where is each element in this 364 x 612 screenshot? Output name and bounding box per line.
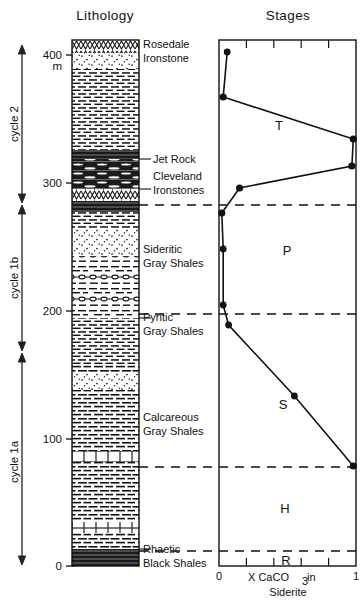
litho-unit-sideritic-gray-shales: [72, 256, 139, 318]
litho-band-limestone-b: [72, 522, 139, 533]
litho-label-rhaetic-line1: Rhaetic: [143, 543, 181, 555]
litho-label-pyritic-line1: Pyritic: [143, 311, 173, 323]
data-point: [225, 322, 232, 329]
stages-title: Stages: [266, 8, 310, 23]
litho-label-rhaetic-line2: Black Shales: [143, 557, 207, 569]
stages-plot-frame: [219, 40, 356, 566]
litho-unit-pyritic-gray-shales: [72, 318, 139, 364]
litho-unit-jet-rock: [72, 159, 139, 189]
xaxis-title-pre: X CaCO: [248, 571, 289, 583]
litho-label-cleveland-line2: Ironstones: [153, 184, 205, 196]
data-point: [291, 393, 298, 400]
caco3-data-points: [218, 49, 357, 470]
litho-unit-sandstone-mid: [72, 228, 139, 256]
xaxis-title-post: in: [307, 571, 316, 583]
stratigraphic-figure: Lithology Stages cycle 2 cycle 1b cycle …: [0, 0, 364, 612]
stage-label-R: R: [281, 553, 290, 568]
litho-unit-laminated-band-a: [72, 150, 139, 159]
litho-label-rosedale-line2: Ironstone: [143, 52, 189, 64]
depth-tick-200: 200: [43, 305, 62, 317]
depth-tick-0: 0: [56, 560, 62, 572]
stage-label-H: H: [280, 501, 289, 516]
litho-unit-rosedale-ironstone: [72, 40, 139, 53]
stage-label-S: S: [279, 397, 288, 412]
litho-label-calcareous-line1: Calcareous: [143, 411, 199, 423]
data-point: [220, 302, 227, 309]
data-point: [220, 93, 227, 100]
litho-label-rosedale-line1: Rosedale: [143, 38, 189, 50]
data-point: [348, 162, 355, 169]
xaxis-title: X CaCO 3 in Siderite: [248, 571, 316, 598]
data-point: [224, 49, 231, 56]
data-point: [218, 209, 225, 216]
lithology-column: [72, 40, 139, 566]
cycle-label-cycle-1b: cycle 1b: [8, 257, 20, 299]
depth-tick-100: 100: [43, 433, 62, 445]
litho-label-sideritic-line1: Sideritic: [143, 243, 183, 255]
litho-label-pyritic-line2: Gray Shales: [143, 325, 204, 337]
litho-band-silty-a: [72, 372, 139, 390]
stage-label-T: T: [275, 118, 283, 133]
depth-tick-300: 300: [43, 177, 62, 189]
litho-unit-cleveland-ironstones: [72, 189, 139, 201]
litho-unit-ironstone-dark-band: [72, 201, 139, 212]
litho-label-sideritic-line2: Gray Shales: [143, 257, 204, 269]
xaxis-tick-1: 1: [353, 570, 359, 582]
litho-unit-shale-mid: [72, 212, 139, 228]
figure-canvas: Lithology Stages cycle 2 cycle 1b cycle …: [0, 0, 364, 612]
data-point: [350, 462, 357, 469]
data-point: [236, 184, 243, 191]
xaxis-tick-0: 0: [216, 570, 222, 582]
stages-top-ticks: [246, 40, 328, 48]
cycle-label-cycle-2: cycle 2: [8, 106, 20, 142]
xaxis-title-line2: Siderite: [269, 586, 306, 598]
stage-label-P: P: [283, 243, 292, 258]
litho-band-limestone-a: [72, 451, 139, 462]
litho-label-calcareous-line2: Gray Shales: [143, 425, 204, 437]
litho-unit-rhaetic-black-shales: [72, 549, 139, 566]
leader-lines: [139, 159, 151, 549]
cycle-label-cycle-1a: cycle 1a: [8, 440, 20, 483]
litho-label-jet-rock: Jet Rock: [153, 153, 196, 165]
depth-unit-label: m: [52, 60, 62, 72]
data-point: [220, 246, 227, 253]
stages-plot: T P S H R: [139, 40, 357, 568]
data-point: [350, 135, 357, 142]
lithology-labels: Rosedale Ironstone Jet Rock Cleveland Ir…: [143, 38, 207, 569]
litho-label-cleveland-line1: Cleveland: [153, 170, 202, 182]
lithology-title: Lithology: [76, 8, 134, 23]
caco3-curve: [222, 52, 353, 466]
litho-unit-sandstone-upper: [72, 53, 139, 69]
